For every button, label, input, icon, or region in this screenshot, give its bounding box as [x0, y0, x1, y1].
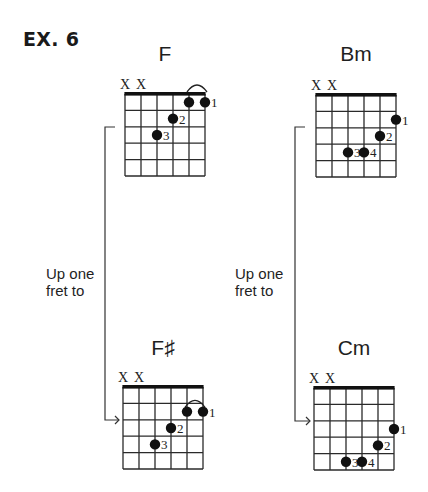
chord-diagram-f-sharp: XX123: [118, 370, 216, 469]
nut: [313, 386, 394, 390]
finger-dot: [152, 130, 162, 140]
finger-number: 1: [211, 95, 218, 110]
muted-string-x: X: [118, 370, 128, 385]
finger-number: 2: [386, 129, 393, 144]
finger-dot: [343, 147, 353, 157]
finger-number: 1: [400, 422, 407, 437]
finger-dot: [359, 147, 369, 157]
finger-dot: [341, 457, 351, 467]
finger-number: 2: [177, 421, 184, 436]
muted-string-x: X: [327, 78, 337, 93]
chord-exercise-page: EX. 6 F Bm F♯ Cm Up one fret to Up one f…: [0, 0, 428, 492]
finger-number: 4: [368, 455, 375, 470]
finger-dot: [200, 97, 210, 107]
nut: [315, 93, 396, 97]
finger-dot: [182, 406, 192, 416]
bracket-arrow-left: [105, 127, 119, 424]
muted-string-x: X: [309, 371, 319, 386]
bracket-arrow-right: [295, 127, 310, 425]
finger-number: 3: [163, 128, 170, 143]
finger-number: 1: [209, 405, 216, 420]
finger-dot: [184, 97, 194, 107]
finger-dot: [150, 439, 160, 449]
finger-dot: [391, 114, 401, 124]
muted-string-x: X: [136, 77, 146, 92]
finger-dot: [375, 131, 385, 141]
finger-number: 3: [161, 437, 168, 452]
finger-number: 4: [370, 145, 377, 160]
finger-dot: [373, 440, 383, 450]
chord-diagram-f: XX123: [120, 77, 218, 176]
finger-dot: [198, 406, 208, 416]
chord-diagrams-canvas: XX123 XX1234 XX123 XX1234: [0, 0, 428, 492]
nut: [122, 385, 203, 389]
finger-number: 2: [179, 112, 186, 127]
finger-number: 1: [402, 113, 409, 128]
finger-number: 2: [384, 438, 391, 453]
nut: [124, 92, 205, 96]
muted-string-x: X: [120, 77, 130, 92]
muted-string-x: X: [134, 370, 144, 385]
finger-dot: [166, 423, 176, 433]
finger-dot: [357, 457, 367, 467]
finger-dot: [389, 424, 399, 434]
finger-dot: [168, 113, 178, 123]
muted-string-x: X: [325, 371, 335, 386]
barre-arc: [187, 85, 207, 92]
chord-diagram-bm: XX1234: [311, 78, 409, 177]
chord-diagram-cm: XX1234: [309, 371, 407, 470]
muted-string-x: X: [311, 78, 321, 93]
